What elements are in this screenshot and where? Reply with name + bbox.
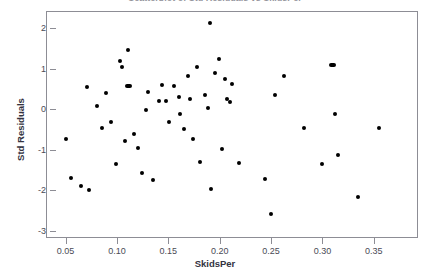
x-axis-tick-label: 0.35 [365, 246, 383, 256]
data-point [223, 77, 227, 81]
data-point [69, 176, 73, 180]
x-axis-label: SkidsPer [0, 258, 430, 269]
data-point [208, 21, 212, 25]
x-axis-tick-label: 0.20 [211, 246, 229, 256]
data-point [333, 112, 337, 116]
data-point [213, 71, 217, 75]
y-axis-tick [50, 231, 56, 232]
y-axis-tick [50, 28, 56, 29]
y-axis-tick [50, 190, 56, 191]
x-axis-tick [168, 238, 169, 244]
data-point [104, 91, 108, 95]
x-axis-tick [66, 238, 67, 244]
data-point [109, 120, 113, 124]
data-point [85, 85, 89, 89]
data-point [100, 126, 104, 130]
data-points-layer [47, 12, 417, 237]
data-point [167, 120, 171, 124]
data-point [269, 212, 273, 216]
data-point [320, 162, 324, 166]
y-axis-tick-label: 2 [41, 23, 46, 33]
data-point [228, 100, 232, 104]
y-axis-label: Std Residuals [15, 80, 26, 180]
y-axis-tick-label: 1 [41, 64, 46, 74]
data-point [217, 57, 221, 61]
data-point [160, 83, 164, 87]
plot-area [46, 11, 418, 238]
y-axis-tick-label: -2 [38, 185, 46, 195]
data-point [123, 139, 127, 143]
data-point [125, 84, 132, 88]
data-point [151, 178, 155, 182]
data-point [209, 187, 213, 191]
x-axis-tick [374, 238, 375, 244]
chart-title: Scatterplot of Std Residuals vs SkidsPer [0, 0, 430, 1]
data-point [114, 162, 118, 166]
data-point [302, 126, 306, 130]
y-axis-tick-label: -1 [38, 145, 46, 155]
x-axis-tick-label: 0.05 [57, 246, 75, 256]
data-point [191, 137, 195, 141]
data-point [132, 132, 136, 136]
x-axis-tick [322, 238, 323, 244]
x-axis-tick-label: 0.30 [314, 246, 332, 256]
x-axis-tick [271, 238, 272, 244]
data-point [273, 93, 277, 97]
data-point [182, 127, 186, 131]
data-point [140, 171, 144, 175]
data-point [144, 108, 148, 112]
data-point [203, 93, 207, 97]
x-axis-tick-label: 0.25 [262, 246, 280, 256]
data-point [146, 90, 150, 94]
y-axis-tick-label: 0 [41, 104, 46, 114]
data-point [118, 59, 122, 63]
data-point [120, 65, 124, 69]
data-point [64, 137, 68, 141]
data-point [188, 97, 192, 101]
x-axis-tick-label: 0.15 [160, 246, 178, 256]
data-point [356, 195, 360, 199]
data-point [220, 147, 224, 151]
data-point [95, 104, 99, 108]
data-point [195, 65, 199, 69]
data-point [377, 126, 381, 130]
x-axis-tick [220, 238, 221, 244]
x-axis-tick [117, 238, 118, 244]
data-point [79, 184, 83, 188]
data-point [164, 99, 168, 103]
data-point [172, 84, 176, 88]
data-point [87, 188, 91, 192]
data-point [336, 153, 340, 157]
y-axis-tick [50, 109, 56, 110]
data-point [237, 161, 241, 165]
data-point [157, 99, 161, 103]
data-point [198, 160, 202, 164]
y-axis-tick [50, 69, 56, 70]
data-point [186, 74, 190, 78]
data-point [177, 95, 181, 99]
x-axis-tick-label: 0.10 [108, 246, 126, 256]
data-point [230, 82, 234, 86]
data-point [136, 146, 140, 150]
data-point [263, 177, 267, 181]
data-point [329, 63, 336, 67]
data-point [126, 48, 130, 52]
data-point [206, 106, 210, 110]
data-point [178, 112, 182, 116]
y-axis-tick [50, 150, 56, 151]
data-point [282, 74, 286, 78]
y-axis-tick-label: -3 [38, 226, 46, 236]
scatterplot-figure: Scatterplot of Std Residuals vs SkidsPer… [0, 0, 430, 274]
